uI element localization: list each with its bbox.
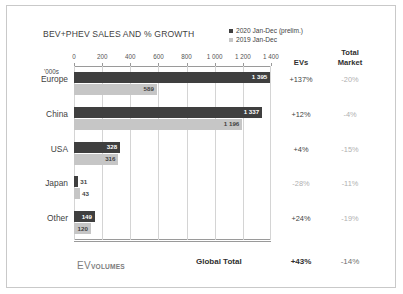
x-tickmark-1400 <box>271 63 272 66</box>
bar-value-2019-usa: 316 <box>105 156 118 162</box>
chart-legend: 2020 Jan-Dec (prelim.) 2019 Jan-Dec <box>229 26 303 44</box>
chart-row-china: China 1 337 1 196 +12% -4% <box>74 101 271 136</box>
column-header-total-market-line2: Market <box>327 58 373 68</box>
x-axis-ticks: 0 200 400 600 800 1 000 1 200 1 400 <box>74 53 271 65</box>
category-label-europe: Europe <box>10 74 68 84</box>
legend-label-2019: 2019 Jan-Dec <box>236 35 277 44</box>
bar-2020-europe[interactable]: 1 395 <box>74 72 270 83</box>
bar-group-china: 1 337 1 196 <box>74 101 271 136</box>
x-tick-400: 400 <box>125 53 136 60</box>
total-market-china: -4% <box>327 110 373 119</box>
evs-growth-usa: +4% <box>279 145 323 154</box>
plot-area: Europe 1 395 589 +137% -20% China 1 337 … <box>74 66 271 240</box>
chart-row-other: Other 149 120 +24% -19% <box>74 205 271 240</box>
total-market-other: -19% <box>327 214 373 223</box>
chart-row-europe: Europe 1 395 589 +137% -20% <box>74 66 271 101</box>
bar-value-2020-other: 149 <box>82 214 95 220</box>
bar-value-2020-europe: 1 395 <box>252 74 270 80</box>
bar-2020-other[interactable]: 149 <box>74 211 95 222</box>
bar-2019-other[interactable]: 120 <box>74 223 91 234</box>
legend-item-2020: 2020 Jan-Dec (prelim.) <box>229 26 303 35</box>
bar-group-usa: 328 316 <box>74 136 271 171</box>
chart-figure: BEV+PHEV SALES AND % GROWTH 2020 Jan-Dec… <box>0 0 403 294</box>
legend-swatch-2020 <box>229 29 233 33</box>
x-tick-1400: 1 400 <box>263 53 279 60</box>
ev-volumes-logo: EVVOLUMES <box>77 255 125 273</box>
bar-2019-china[interactable]: 1 196 <box>74 119 242 130</box>
legend-label-2020: 2020 Jan-Dec (prelim.) <box>236 26 303 35</box>
x-tick-800: 800 <box>181 53 192 60</box>
global-total-evs: +43% <box>279 257 323 266</box>
bar-2019-europe[interactable]: 589 <box>74 84 157 95</box>
logo-text-volumes: VOLUMES <box>91 263 125 270</box>
bar-2019-japan[interactable]: 43 <box>74 188 80 199</box>
bar-value-2020-usa: 328 <box>107 144 120 150</box>
evs-growth-china: +12% <box>279 110 323 119</box>
total-market-japan: -11% <box>327 179 373 188</box>
bar-2020-china[interactable]: 1 337 <box>74 107 262 118</box>
x-tick-1200: 1 200 <box>235 53 251 60</box>
bar-value-2019-china: 1 196 <box>224 121 242 127</box>
bar-group-other: 149 120 <box>74 205 271 240</box>
x-tick-200: 200 <box>97 53 108 60</box>
legend-swatch-2019 <box>229 38 233 42</box>
bar-2020-usa[interactable]: 328 <box>74 142 120 153</box>
bar-value-2019-japan: 43 <box>80 191 89 197</box>
total-market-usa: -15% <box>327 145 373 154</box>
chart-title: BEV+PHEV SALES AND % GROWTH <box>43 29 194 39</box>
bar-value-2019-other: 120 <box>78 226 91 232</box>
evs-growth-other: +24% <box>279 214 323 223</box>
category-label-china: China <box>10 109 68 119</box>
bar-group-japan: 31 43 <box>74 170 271 205</box>
column-header-total-market: Total Market <box>327 48 373 68</box>
evs-growth-europe: +137% <box>279 75 323 84</box>
chart-row-japan: Japan 31 43 -28% -11% <box>74 170 271 205</box>
category-label-usa: USA <box>10 144 68 154</box>
bar-value-2020-japan: 31 <box>78 179 87 185</box>
bar-value-2019-europe: 589 <box>144 86 157 92</box>
total-market-europe: -20% <box>327 75 373 84</box>
logo-text-ev: EV <box>77 260 91 271</box>
footer-divider <box>74 241 271 242</box>
x-tick-600: 600 <box>153 53 164 60</box>
bar-2019-usa[interactable]: 316 <box>74 154 118 165</box>
bar-group-europe: 1 395 589 <box>74 66 271 101</box>
global-total-market: -14% <box>327 257 373 266</box>
evs-growth-japan: -28% <box>279 179 323 188</box>
category-label-japan: Japan <box>10 178 68 188</box>
chart-row-usa: USA 328 316 +4% -15% <box>74 136 271 171</box>
column-header-evs: EVs <box>279 58 323 67</box>
global-total-label: Global Total <box>196 257 242 266</box>
column-header-total-market-line1: Total <box>327 48 373 58</box>
bar-2020-japan[interactable]: 31 <box>74 176 78 187</box>
x-tick-1000: 1 000 <box>207 53 223 60</box>
category-label-other: Other <box>10 213 68 223</box>
bar-value-2020-china: 1 337 <box>244 109 262 115</box>
x-tick-0: 0 <box>72 53 76 60</box>
legend-item-2019: 2019 Jan-Dec <box>229 35 303 44</box>
